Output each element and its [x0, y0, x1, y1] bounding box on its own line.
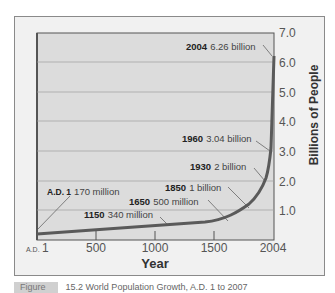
x-tick-labels: A.D. 1 500 1000 1500 2004 [26, 241, 287, 255]
x-axis-title: Year [141, 256, 168, 271]
annotation-ad1: A.D. 1170 million [47, 186, 120, 197]
x-tick-500: 500 [86, 241, 106, 255]
annotation-1960: 19603.04 billion [182, 133, 252, 144]
x-tick-1500: 1500 [201, 241, 228, 255]
x-tick-0: 1 [42, 241, 49, 255]
y-tick-4: 4.0 [279, 115, 296, 129]
annotation-1650: 1650500 million [129, 196, 199, 207]
y-tick-labels: 7.0 6.0 5.0 4.0 3.0 2.0 1.0 [279, 26, 296, 218]
y-tick-5: 5.0 [279, 86, 296, 100]
figure-caption: Figure15.2 World Population Growth, A.D.… [14, 282, 325, 293]
y-axis-title: Billions of People [307, 64, 321, 165]
x-tick-0-prefix: A.D. [26, 246, 40, 253]
x-tick-2004: 2004 [260, 241, 287, 255]
x-tick-1000: 1000 [142, 241, 169, 255]
population-chart: 7.0 6.0 5.0 4.0 3.0 2.0 1.0 Billions of … [0, 0, 335, 293]
annotation-1150: 1150340 million [84, 209, 153, 220]
annotation-1930: 19302 billion [190, 161, 246, 172]
caption-tag: Figure [14, 282, 58, 293]
y-tick-3: 3.0 [279, 145, 296, 159]
annotation-1850: 18501 billion [165, 182, 221, 193]
y-tick-6: 6.0 [279, 56, 296, 70]
y-tick-2: 2.0 [279, 175, 296, 189]
y-tick-1: 1.0 [279, 204, 296, 218]
caption-text: 15.2 World Population Growth, A.D. 1 to … [58, 282, 248, 292]
annotation-2004: 20046.26 billion [186, 41, 256, 52]
y-tick-7: 7.0 [279, 26, 296, 40]
